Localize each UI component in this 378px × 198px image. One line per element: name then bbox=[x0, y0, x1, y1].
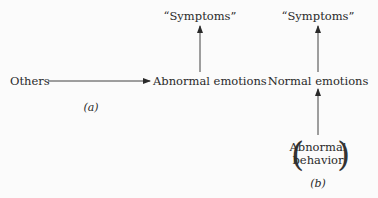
arrows-layer bbox=[0, 0, 378, 198]
node-others: Others bbox=[10, 76, 50, 88]
node-normal-emotions: Normal emotions bbox=[268, 76, 369, 88]
node-abnormal-emotions: Abnormal emotions bbox=[153, 76, 267, 88]
caption-b: (b) bbox=[310, 178, 326, 189]
caption-a: (a) bbox=[83, 102, 98, 113]
right-parenthesis: ) bbox=[337, 137, 350, 171]
node-symptoms-a: “Symptoms” bbox=[164, 11, 237, 23]
node-symptoms-b: “Symptoms” bbox=[282, 11, 355, 23]
